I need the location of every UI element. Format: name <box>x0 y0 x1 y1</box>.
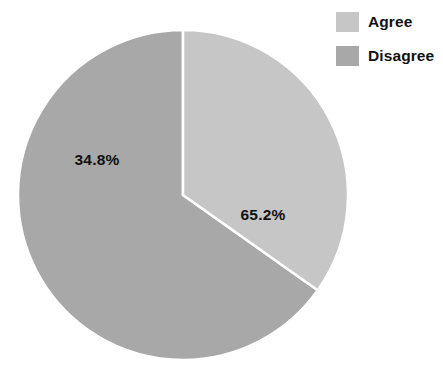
slice-label-agree: 34.8% <box>75 151 120 168</box>
legend-item-disagree[interactable]: Disagree <box>336 46 434 66</box>
chart-legend: Agree Disagree <box>336 12 434 66</box>
legend-swatch-disagree <box>336 46 359 66</box>
pie-chart: 34.8% 65.2% Agree Disagree <box>0 0 443 384</box>
legend-swatch-agree <box>336 12 359 32</box>
slice-label-disagree: 65.2% <box>241 206 286 223</box>
legend-label-agree: Agree <box>368 14 412 30</box>
legend-label-disagree: Disagree <box>368 48 434 64</box>
pie-slices <box>18 30 348 360</box>
legend-item-agree[interactable]: Agree <box>336 12 434 32</box>
